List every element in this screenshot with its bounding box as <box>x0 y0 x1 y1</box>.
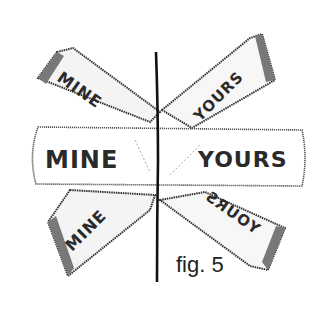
sign-upper-right: YOURS <box>162 34 275 128</box>
center-right-label: YOURS <box>197 147 288 172</box>
center-band: MINE YOURS <box>32 127 305 186</box>
sign-upper-left: MINE <box>38 48 160 122</box>
figure-caption: fig. 5 <box>176 252 224 278</box>
sign-lower-left: MINE <box>48 190 155 276</box>
center-left-label: MINE <box>45 146 118 174</box>
sketch-figure: MINE YOURS MINE YOURS MINE YOURS <box>0 0 327 317</box>
